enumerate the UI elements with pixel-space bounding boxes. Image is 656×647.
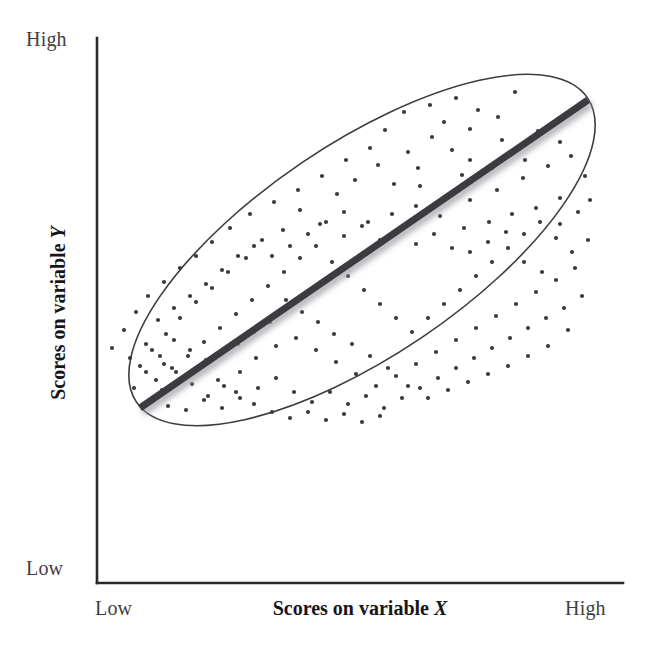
scatter-point bbox=[474, 326, 478, 330]
scatter-point bbox=[238, 370, 242, 374]
scatter-point bbox=[383, 128, 387, 132]
scatter-point bbox=[468, 250, 472, 254]
scatter-point bbox=[188, 348, 192, 352]
scatter-point bbox=[162, 280, 166, 284]
scatter-point bbox=[186, 354, 190, 358]
scatter-point bbox=[332, 332, 336, 336]
scatter-point bbox=[546, 344, 550, 348]
x-axis-title: Scores on variable X bbox=[97, 597, 623, 620]
scatter-point bbox=[454, 338, 458, 342]
scatter-point bbox=[178, 316, 182, 320]
scatter-point bbox=[248, 212, 252, 216]
scatter-point bbox=[353, 178, 357, 182]
scatter-point bbox=[184, 408, 188, 412]
scatter-point bbox=[234, 312, 238, 316]
scatter-point bbox=[324, 418, 328, 422]
scatter-point bbox=[320, 174, 324, 178]
scatter-point bbox=[438, 214, 442, 218]
scatter-point bbox=[288, 244, 292, 248]
scatter-point bbox=[146, 294, 150, 298]
scatter-point bbox=[132, 386, 136, 390]
scatter-point bbox=[134, 310, 138, 314]
scatter-point bbox=[436, 376, 440, 380]
scatter-point bbox=[558, 196, 562, 200]
scatter-point bbox=[394, 316, 398, 320]
plot-canvas bbox=[0, 0, 656, 647]
scatter-point bbox=[202, 340, 206, 344]
scatter-point bbox=[394, 374, 398, 378]
scatter-point bbox=[428, 103, 432, 107]
scatter-point bbox=[252, 244, 256, 248]
scatter-point bbox=[274, 344, 278, 348]
scatter-point bbox=[138, 364, 142, 368]
scatter-point bbox=[150, 348, 154, 352]
scatter-point bbox=[364, 394, 368, 398]
scatter-point bbox=[514, 302, 518, 306]
scatter-point bbox=[238, 396, 242, 400]
scatter-point bbox=[236, 254, 240, 258]
scatter-point bbox=[458, 288, 462, 292]
scatter-point bbox=[222, 384, 226, 388]
scatter-point bbox=[416, 166, 420, 170]
scatter-point bbox=[310, 400, 314, 404]
data-ellipse bbox=[77, 10, 647, 490]
scatter-point bbox=[254, 356, 258, 360]
scatter-point bbox=[220, 406, 224, 410]
scatter-point bbox=[386, 366, 390, 370]
scatter-point bbox=[324, 220, 328, 224]
scatter-point bbox=[450, 148, 454, 152]
scatter-point bbox=[284, 298, 288, 302]
scatter-point bbox=[194, 254, 198, 258]
scatter-point bbox=[376, 163, 380, 167]
scatter-point bbox=[362, 288, 366, 292]
scatter-point bbox=[566, 328, 570, 332]
scatter-point bbox=[366, 220, 370, 224]
scatter-point bbox=[521, 176, 525, 180]
scatter-point bbox=[504, 230, 508, 234]
scatter-point bbox=[360, 224, 364, 228]
scatter-point bbox=[122, 328, 126, 332]
scatter-point bbox=[344, 158, 348, 162]
scatter-point bbox=[300, 310, 304, 314]
scatter-point bbox=[306, 410, 310, 414]
scatter-point bbox=[414, 204, 418, 208]
x-axis-title-variable: X bbox=[434, 597, 447, 619]
scatter-point bbox=[296, 188, 300, 192]
scatter-point bbox=[218, 326, 222, 330]
scatter-point bbox=[202, 398, 206, 402]
y-axis-high-label: High bbox=[26, 28, 67, 51]
scatter-point bbox=[252, 402, 256, 406]
scatter-point bbox=[495, 188, 499, 192]
scatter-point bbox=[406, 384, 410, 388]
scatter-point bbox=[354, 372, 358, 376]
scatter-point bbox=[216, 378, 220, 382]
scatter-point bbox=[162, 362, 166, 366]
scatter-point bbox=[442, 302, 446, 306]
scatter-point bbox=[244, 256, 248, 260]
scatter-point bbox=[434, 350, 438, 354]
scatter-point bbox=[368, 354, 372, 358]
scatter-point bbox=[418, 184, 422, 188]
scatter-point bbox=[174, 370, 178, 374]
scatter-point bbox=[266, 284, 270, 288]
scatter-point bbox=[554, 236, 558, 240]
x-axis-title-text: Scores on variable bbox=[273, 597, 429, 619]
scatter-point bbox=[583, 174, 587, 178]
scatter-point bbox=[144, 342, 148, 346]
scatter-point bbox=[306, 232, 310, 236]
scatter-point bbox=[172, 338, 176, 342]
scatter-point bbox=[234, 390, 238, 394]
scatter-point bbox=[468, 158, 472, 162]
scatter-point bbox=[558, 140, 562, 144]
scatter-point bbox=[580, 294, 584, 298]
scatter-point bbox=[486, 240, 490, 244]
scatter-point bbox=[292, 390, 296, 394]
scatter-point bbox=[220, 268, 224, 272]
scatter-point bbox=[490, 346, 494, 350]
scatter-point bbox=[487, 220, 491, 224]
scatter-point bbox=[442, 120, 446, 124]
scatter-point bbox=[204, 282, 208, 286]
scatter-point bbox=[144, 370, 148, 374]
scatter-point bbox=[250, 298, 254, 302]
scatter-point bbox=[342, 234, 346, 238]
